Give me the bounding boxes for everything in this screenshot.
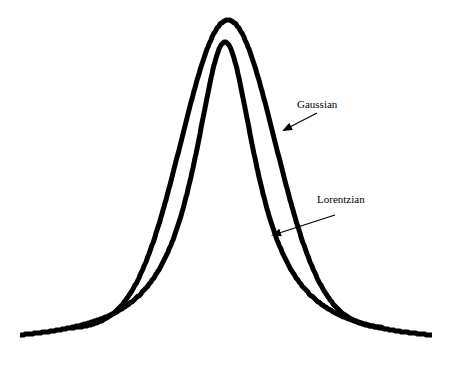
- gaussian-label: Gaussian: [297, 98, 338, 110]
- lorentzian-label: Lorentzian: [317, 193, 365, 205]
- lineshape-comparison-figure: Gaussian Lorentzian: [0, 0, 455, 371]
- figure-background: [0, 0, 455, 371]
